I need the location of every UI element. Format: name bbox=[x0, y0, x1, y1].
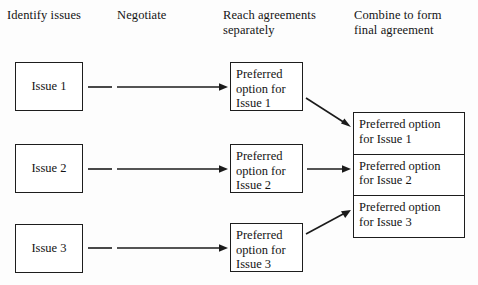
column-heading-negotiate: Negotiate bbox=[117, 8, 167, 23]
preferred-option-box-3: Preferred option for Issue 3 bbox=[230, 223, 303, 272]
combined-cell-issue-1: Preferred option for Issue 1 bbox=[354, 113, 464, 154]
diagram-canvas: Identify issues Negotiate Reach agreemen… bbox=[0, 0, 478, 285]
combined-agreement-box: Preferred option for Issue 1 Preferred o… bbox=[353, 112, 465, 238]
issue-box-1-label: Issue 1 bbox=[31, 79, 66, 94]
combined-cell-issue-2: Preferred option for Issue 2 bbox=[354, 154, 464, 196]
arrow-issue-3-to-pref-3 bbox=[88, 244, 228, 252]
column-heading-combine-to-form-final-agreement: Combine to form final agreement bbox=[354, 8, 442, 37]
issue-box-3-label: Issue 3 bbox=[31, 241, 66, 256]
arrow-pref-2-to-combined bbox=[307, 165, 351, 173]
issue-box-3: Issue 3 bbox=[15, 224, 83, 273]
arrow-pref-3-to-combined bbox=[306, 210, 351, 234]
issue-box-2-label: Issue 2 bbox=[31, 161, 66, 176]
arrow-issue-1-to-pref-1 bbox=[88, 83, 228, 91]
preferred-option-box-1: Preferred option for Issue 1 bbox=[230, 62, 303, 111]
issue-box-1: Issue 1 bbox=[15, 62, 83, 111]
issue-box-2: Issue 2 bbox=[15, 144, 83, 193]
arrow-pref-1-to-combined bbox=[306, 98, 351, 127]
arrow-issue-2-to-pref-2 bbox=[88, 165, 228, 173]
preferred-option-box-2: Preferred option for Issue 2 bbox=[230, 144, 303, 193]
column-heading-identify-issues: Identify issues bbox=[7, 8, 81, 23]
combined-cell-issue-3: Preferred option for Issue 3 bbox=[354, 195, 464, 237]
column-heading-reach-agreements-separately: Reach agreements separately bbox=[223, 8, 316, 37]
